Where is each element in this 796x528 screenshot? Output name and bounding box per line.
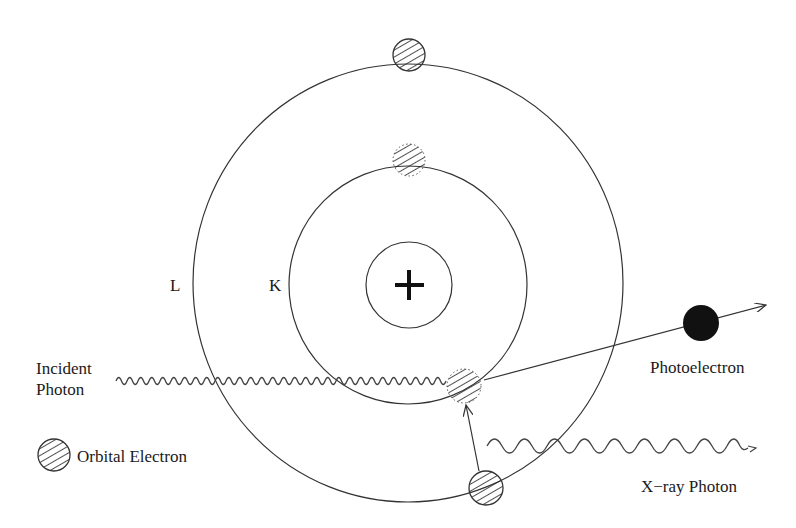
shell-label-l: L <box>170 276 180 295</box>
k-shell-electron-top <box>393 144 425 176</box>
photoelectron-label: Photoelectron <box>650 358 745 377</box>
legend-orbital-electron-icon <box>38 439 70 471</box>
photoelectron <box>683 305 719 341</box>
electron-transition-arrow <box>466 405 479 471</box>
xray-photon-label: X−ray Photon <box>641 477 737 496</box>
incident-photon-label-line1: Incident <box>36 359 92 378</box>
xray-photon-wave <box>487 439 748 453</box>
legend-orbital-electron-label: Orbital Electron <box>77 447 187 466</box>
photoelectric-diagram: L K Incident Photon Photoelectron X−ray … <box>0 0 796 528</box>
shell-label-k: K <box>269 276 282 295</box>
incident-photon-label-line2: Photon <box>36 380 85 399</box>
xray-arrowhead-icon <box>748 446 756 452</box>
l-shell-electron-top <box>393 39 425 71</box>
plus-icon <box>395 270 424 300</box>
l-shell-electron-bottom <box>469 471 503 505</box>
incident-photon-wave <box>116 378 446 385</box>
k-shell-vacancy-electron <box>447 369 481 403</box>
